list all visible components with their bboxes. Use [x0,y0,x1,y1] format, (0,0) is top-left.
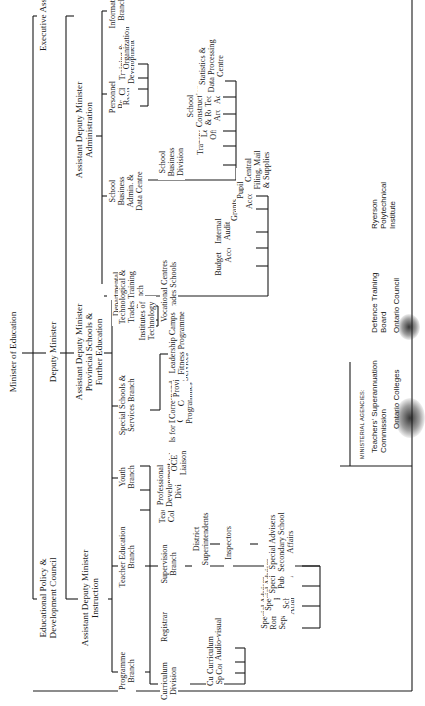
information-branch: Information Branch [108,0,126,30]
school-business-admin: School Business Admin. & Data Centre [108,170,144,212]
policy-council: Educational Policy & Development Council [38,547,58,649]
ministerial-agencies-heading: MINISTERIAL AGENCIES: [358,358,367,460]
sba-school-business-division: School Business Division [158,144,185,180]
adm-administration: Assistant Deputy Minister Administration [74,64,94,196]
special-schools-branch: Special Schools & Services Branch [118,372,136,438]
deputy-minister: Deputy Minister [48,311,58,393]
teacher-education-branch: Teacher Education Branch [118,520,136,594]
dept-central-filing: Central Filing, Mail & Supplies [244,146,271,194]
institutes-of-technology: Institutes of Technology [138,296,156,346]
oce-liaison: OCE Liaison [170,442,188,484]
inspectors: Inspectors [224,518,233,568]
agency-defence-training-board: Defence Training Board [370,252,388,334]
agency-teachers-superannuation: Teachers' Superannuation Commission [370,342,388,454]
minister-of-education: Minister of Education [8,288,18,416]
org-chart: Minister of Education Executive Assistan… [0,0,425,706]
programme-branch: Programme Branch [118,650,136,692]
registrar: Registrar [160,606,169,648]
scan-smudge [395,398,425,438]
dept-budget: Budget [214,248,223,280]
adm-provincial-schools: Assistant Deputy Minister Provincial Sch… [74,284,104,420]
youth-branch: Youth Branch [118,458,136,496]
leadership-camps: Leadership Camps Fitness Programme [168,306,186,380]
adviser-secondary-school: Special Advisers Secondary School Affair… [268,508,295,576]
audio-visual: Audio-visual [214,614,223,664]
agency-ryerson-polytechnical: Ryerson Polytechnical Institute [370,158,397,230]
supervision-branch: Supervision Branch [160,542,178,586]
curriculum-division: Curriculum Division [160,660,178,702]
sba-statistics-data-centre: Statistics & Data Processing Centre [198,36,225,96]
executive-assistant: Executive Assistant [38,0,48,66]
scan-smudge [398,314,420,340]
district-superintendents: District Superintendents [192,508,210,570]
adm-instruction: Assistant Deputy Minister Instruction [80,534,100,662]
